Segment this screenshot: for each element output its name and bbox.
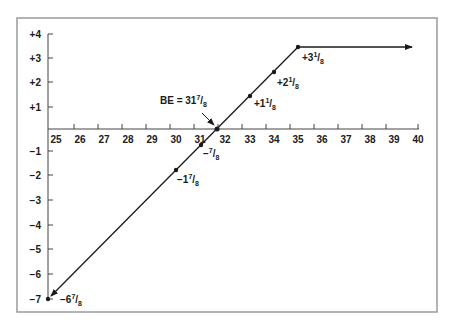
- y-label-n4: −4: [30, 220, 42, 231]
- x-label-30: 30: [170, 134, 182, 145]
- point-25: [46, 297, 50, 301]
- chart-frame: [17, 18, 437, 312]
- x-label-35: 35: [292, 134, 304, 145]
- x-label-33: 33: [244, 134, 256, 145]
- y-label-n6: −6: [30, 269, 42, 280]
- x-label-39: 39: [388, 134, 400, 145]
- x-label-36: 36: [316, 134, 328, 145]
- x-label-32: 32: [219, 134, 231, 145]
- point-34: [272, 70, 276, 74]
- y-label-p1: +1: [30, 102, 42, 113]
- point-33: [248, 94, 252, 98]
- x-label-34: 34: [268, 134, 280, 145]
- break-even-label: BE = 317/8: [160, 94, 207, 108]
- y-label-n7: −7: [30, 294, 42, 305]
- y-label-n1: −1: [30, 146, 42, 157]
- x-label-40: 40: [412, 134, 424, 145]
- y-label-n2: −2: [30, 170, 42, 181]
- x-label-28: 28: [122, 134, 134, 145]
- y-label-n3: −3: [30, 195, 42, 206]
- x-label-38: 38: [364, 134, 376, 145]
- x-label-26: 26: [74, 134, 86, 145]
- x-label-25: 25: [50, 134, 62, 145]
- y-label-p2: +2: [30, 77, 42, 88]
- point-31: [199, 143, 203, 147]
- x-label-37: 37: [340, 134, 352, 145]
- y-label-p3: +3: [30, 53, 42, 64]
- payoff-chart: +4 +3 +2 +1 −1 −2 −3 −4 −5 −6 −7 25 26 2…: [0, 0, 452, 325]
- x-label-29: 29: [146, 134, 158, 145]
- y-label-p4: +4: [30, 29, 42, 40]
- point-35: [296, 45, 300, 49]
- x-label-27: 27: [98, 134, 110, 145]
- y-label-n5: −5: [30, 244, 42, 255]
- point-break-even: [215, 127, 220, 132]
- point-30: [174, 168, 178, 172]
